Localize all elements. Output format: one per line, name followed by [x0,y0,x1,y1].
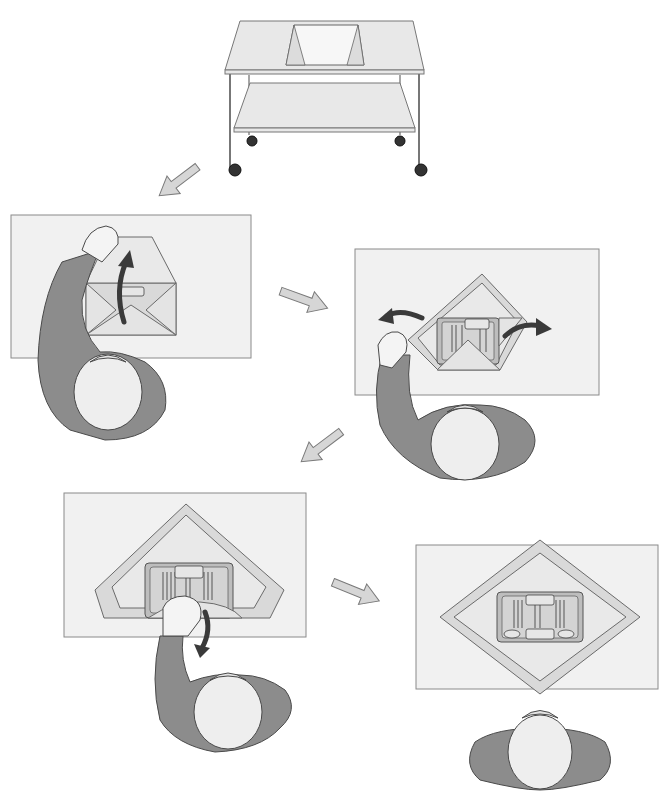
sterile-pack-opening-diagram [0,0,664,796]
step-1-panel [11,215,251,440]
flow-arrow-1 [153,158,205,204]
step-3-panel [64,493,306,752]
step-2-panel [355,249,599,480]
flow-arrow-3 [295,423,348,471]
flow-arrow-4 [329,572,384,611]
step-4-panel [416,540,658,790]
flow-arrow-2 [277,281,332,319]
instrument-cart [225,21,427,176]
